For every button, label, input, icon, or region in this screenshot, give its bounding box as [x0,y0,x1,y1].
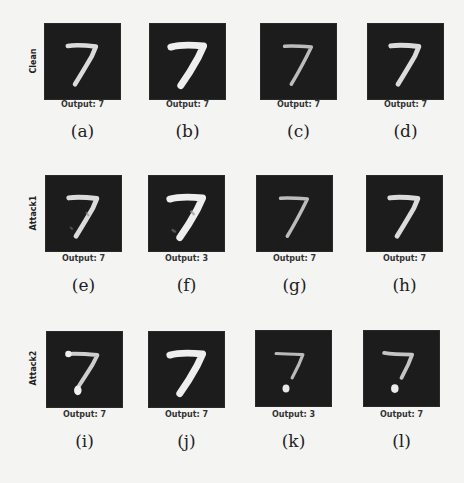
output-label-a: Output: 7 [45,100,120,109]
subcaption-l: (l) [364,431,439,451]
mnist-image-h [367,176,442,251]
output-label-b: Output: 7 [150,100,225,109]
figure-grid: Clean Attack1 Attack2 Output: 7 (a) Outp… [0,0,464,483]
subcaption-a: (a) [45,121,120,141]
mnist-image-f [149,176,224,251]
subcaption-b: (b) [150,121,225,141]
digit-seven-icon [364,331,439,406]
output-label-i: Output: 7 [47,410,122,419]
output-label-e: Output: 7 [46,254,121,263]
row-label-clean: Clean [29,31,39,91]
mnist-image-i [47,332,122,407]
digit-seven-icon [368,24,443,99]
output-label-j: Output: 7 [149,410,224,419]
mnist-image-k [256,331,331,406]
subcaption-c: (c) [261,121,336,141]
digit-seven-icon [149,176,224,251]
subcaption-k: (k) [256,431,331,451]
subcaption-f: (f) [149,275,224,295]
row-label-attack2: Attack2 [29,338,39,398]
mnist-image-j [149,332,224,407]
mnist-image-l [364,331,439,406]
digit-seven-icon [261,24,336,99]
output-label-h: Output: 7 [367,254,442,263]
output-label-c: Output: 7 [261,100,336,109]
subcaption-g: (g) [257,275,332,295]
digit-seven-icon [256,331,331,406]
output-label-d: Output: 7 [368,100,443,109]
subcaption-j: (j) [149,431,224,451]
digit-seven-icon [149,332,224,407]
mnist-image-b [150,24,225,99]
output-label-l: Output: 7 [364,410,439,419]
subcaption-i: (i) [47,431,122,451]
digit-seven-icon [47,332,122,407]
mnist-image-a [45,24,120,99]
digit-seven-icon [45,24,120,99]
subcaption-e: (e) [46,275,121,295]
mnist-image-d [368,24,443,99]
subcaption-d: (d) [368,121,443,141]
output-label-f: Output: 3 [149,254,224,263]
digit-seven-icon [257,176,332,251]
output-label-g: Output: 7 [257,254,332,263]
row-label-attack1: Attack1 [29,183,39,243]
mnist-image-c [261,24,336,99]
digit-seven-icon [150,24,225,99]
output-label-k: Output: 3 [256,410,331,419]
digit-seven-icon [367,176,442,251]
mnist-image-e [46,176,121,251]
digit-seven-icon [46,176,121,251]
subcaption-h: (h) [367,275,442,295]
mnist-image-g [257,176,332,251]
